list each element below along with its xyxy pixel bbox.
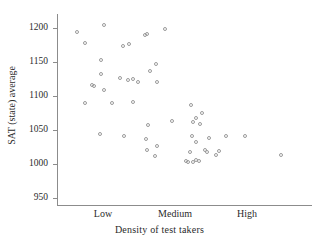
data-point: [243, 134, 247, 138]
data-point: [131, 77, 135, 81]
y-tick-mark: [53, 28, 57, 29]
data-point: [194, 140, 198, 144]
data-point: [146, 123, 150, 127]
data-point: [200, 111, 204, 115]
x-category-label: Low: [94, 208, 112, 219]
x-axis-line: [57, 205, 312, 206]
x-category-label: Medium: [158, 208, 192, 219]
data-point: [217, 149, 221, 153]
data-point: [194, 116, 198, 120]
data-point: [83, 41, 87, 45]
y-tick-label: 950: [34, 193, 48, 203]
y-tick-mark: [53, 130, 57, 131]
data-point: [148, 69, 152, 73]
data-point: [75, 30, 79, 34]
data-point: [190, 134, 194, 138]
data-point: [155, 80, 159, 84]
data-point: [188, 150, 192, 154]
data-point: [145, 148, 149, 152]
scatter-plot-figure: 95010001050110011501200 LowMediumHigh SA…: [0, 0, 319, 245]
data-point: [153, 154, 157, 158]
data-point: [102, 88, 106, 92]
data-point: [122, 134, 126, 138]
data-point: [214, 153, 218, 157]
y-tick-label: 1200: [29, 23, 48, 33]
data-point: [118, 76, 122, 80]
data-point: [163, 27, 167, 31]
data-point: [102, 23, 106, 27]
data-point: [144, 137, 148, 141]
data-point: [155, 144, 159, 148]
data-point: [92, 84, 96, 88]
data-point: [207, 136, 211, 140]
y-tick-label: 1100: [29, 91, 48, 101]
data-point: [126, 78, 130, 82]
data-point: [189, 103, 193, 107]
data-point: [191, 120, 195, 124]
data-point: [145, 32, 149, 36]
data-point: [127, 42, 131, 46]
data-point: [99, 72, 103, 76]
y-tick-mark: [53, 164, 57, 165]
x-category-label: High: [237, 208, 257, 219]
x-axis-title: Density of test takers: [0, 224, 319, 235]
data-point: [98, 132, 102, 136]
y-tick-mark: [53, 62, 57, 63]
data-point: [131, 100, 135, 104]
data-point: [136, 80, 140, 84]
data-point: [99, 58, 103, 62]
data-point: [279, 153, 283, 157]
data-point: [224, 134, 228, 138]
data-point: [110, 101, 114, 105]
data-point: [197, 159, 201, 163]
y-tick-label: 1000: [29, 159, 48, 169]
data-point: [205, 150, 209, 154]
plot-area: [58, 14, 312, 205]
data-point: [170, 119, 174, 123]
data-point: [186, 160, 190, 164]
data-point: [121, 44, 125, 48]
y-tick-mark: [53, 96, 57, 97]
y-tick-mark: [53, 198, 57, 199]
data-point: [198, 122, 202, 126]
y-axis-title: SAT (state) average: [6, 16, 17, 196]
y-tick-label: 1150: [29, 57, 48, 67]
y-tick-label: 1050: [29, 125, 48, 135]
data-point: [154, 62, 158, 66]
data-point: [83, 101, 87, 105]
